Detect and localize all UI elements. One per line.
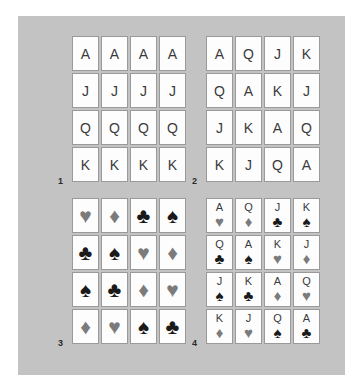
card-suit-spades-icon: ♠ xyxy=(80,279,91,300)
card-rank: A xyxy=(273,121,282,135)
card-rank: Q xyxy=(80,121,91,135)
playing-card: ♦ xyxy=(159,235,186,270)
playing-card: A xyxy=(72,36,99,71)
playing-card: J♥ xyxy=(235,309,262,344)
card-rank: A xyxy=(168,47,177,61)
card-rank: A xyxy=(244,84,253,98)
card-rank: A xyxy=(302,158,311,172)
card-suit-clubs-icon: ♣ xyxy=(244,288,254,303)
card-suit-clubs-icon: ♣ xyxy=(79,242,93,263)
playing-card: K xyxy=(159,147,186,182)
card-suit-diamonds-icon: ♦ xyxy=(216,325,224,340)
card-suit-hearts-icon: ♥ xyxy=(79,205,91,226)
card-rank: K xyxy=(168,158,177,172)
playing-card: K xyxy=(72,147,99,182)
playing-card: Q xyxy=(72,110,99,145)
card-rank: J xyxy=(303,84,310,98)
card-rank: J xyxy=(246,313,252,324)
playing-card: ♥ xyxy=(159,272,186,307)
card-rank: K xyxy=(244,121,253,135)
card-suit-hearts-icon: ♥ xyxy=(137,242,149,263)
playing-card: A xyxy=(235,73,262,108)
card-suit-diamonds-icon: ♦ xyxy=(303,251,311,266)
playing-card: J xyxy=(72,73,99,108)
quadrant-2: AQJKQAKJJKAQKJQA 2 xyxy=(190,36,322,188)
playing-card: ♠ xyxy=(101,235,128,270)
card-rank: K xyxy=(274,239,281,250)
card-grid-4: A♥Q♦J♣K♠Q♣A♠K♥J♦J♠K♣A♦Q♥K♦J♥Q♠A♣ xyxy=(206,198,320,344)
quadrant-1: AAAAJJJJQQQQKKKK 1 xyxy=(56,36,188,188)
card-rank: A xyxy=(216,202,223,213)
playing-card: J♣ xyxy=(264,198,291,233)
card-rank: K xyxy=(81,158,90,172)
card-rank: Q xyxy=(109,121,120,135)
card-rank: A xyxy=(139,47,148,61)
playing-card: Q♣ xyxy=(206,235,233,270)
playing-card: ♠ xyxy=(159,198,186,233)
card-suit-diamonds-icon: ♦ xyxy=(109,205,120,226)
card-suit-clubs-icon: ♣ xyxy=(137,205,151,226)
card-suit-spades-icon: ♠ xyxy=(216,288,224,303)
playing-card: J xyxy=(101,73,128,108)
playing-card: Q xyxy=(159,110,186,145)
card-rank: J xyxy=(216,121,223,135)
card-rank: Q xyxy=(138,121,149,135)
playing-card: A♣ xyxy=(293,309,320,344)
playing-card: A xyxy=(293,147,320,182)
playing-card: ♠ xyxy=(72,272,99,307)
card-suit-clubs-icon: ♣ xyxy=(108,279,122,300)
card-rank: A xyxy=(215,47,224,61)
playing-card: ♦ xyxy=(72,309,99,344)
card-grid-3: ♥♦♣♠♣♠♥♦♠♣♦♥♦♥♠♣ xyxy=(72,198,186,344)
card-grid-1: AAAAJJJJQQQQKKKK xyxy=(72,36,186,182)
card-suit-spades-icon: ♠ xyxy=(303,214,311,229)
card-rank: K xyxy=(139,158,148,172)
card-suit-clubs-icon: ♣ xyxy=(302,325,312,340)
playing-card: Q♠ xyxy=(264,309,291,344)
playing-card: Q♦ xyxy=(235,198,262,233)
card-suit-spades-icon: ♠ xyxy=(109,242,120,263)
playing-card: K♠ xyxy=(293,198,320,233)
playing-card: A xyxy=(159,36,186,71)
card-suit-hearts-icon: ♥ xyxy=(215,214,224,229)
quadrant-label-4: 4 xyxy=(192,338,197,348)
playing-card: K♣ xyxy=(235,272,262,307)
quadrant-3: ♥♦♣♠♣♠♥♦♠♣♦♥♦♥♠♣ 3 xyxy=(56,198,188,350)
card-rank: K xyxy=(216,313,223,324)
playing-card: ♣ xyxy=(101,272,128,307)
playing-card: A♠ xyxy=(235,235,262,270)
card-rank: Q xyxy=(214,84,225,98)
playing-card: Q xyxy=(130,110,157,145)
playing-card: ♣ xyxy=(159,309,186,344)
playing-card: ♥ xyxy=(72,198,99,233)
playing-card: Q♥ xyxy=(293,272,320,307)
quadrant-label-2: 2 xyxy=(192,176,197,186)
card-suit-hearts-icon: ♥ xyxy=(302,288,311,303)
playing-card: J xyxy=(293,73,320,108)
card-rank: K xyxy=(245,276,252,287)
card-rank: A xyxy=(81,47,90,61)
playing-card: J xyxy=(264,36,291,71)
card-rank: J xyxy=(217,276,223,287)
playing-card: K xyxy=(101,147,128,182)
figure-panel: AAAAJJJJQQQQKKKK 1 AQJKQAKJJKAQKJQA 2 ♥♦… xyxy=(18,16,345,375)
playing-card: K♦ xyxy=(206,309,233,344)
card-suit-spades-icon: ♠ xyxy=(138,316,149,337)
card-suit-spades-icon: ♠ xyxy=(167,205,178,226)
playing-card: Q xyxy=(235,36,262,71)
playing-card: ♦ xyxy=(101,198,128,233)
card-rank: Q xyxy=(272,158,283,172)
card-suit-diamonds-icon: ♦ xyxy=(245,214,253,229)
card-rank: J xyxy=(111,84,118,98)
playing-card: ♠ xyxy=(130,309,157,344)
playing-card: A xyxy=(130,36,157,71)
playing-card: A xyxy=(101,36,128,71)
playing-card: ♣ xyxy=(130,198,157,233)
card-rank: J xyxy=(140,84,147,98)
playing-card: Q xyxy=(264,147,291,182)
card-rank: J xyxy=(275,202,281,213)
playing-card: ♦ xyxy=(130,272,157,307)
playing-card: Q xyxy=(293,110,320,145)
card-grid-2: AQJKQAKJJKAQKJQA xyxy=(206,36,320,182)
playing-card: K xyxy=(206,147,233,182)
